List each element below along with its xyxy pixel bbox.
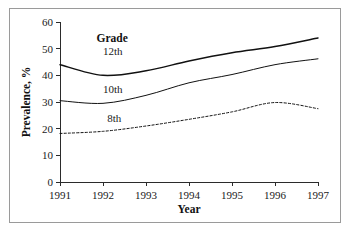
legend-title: Grade: [97, 32, 128, 44]
x-tick-label: 1994: [178, 189, 201, 201]
y-tick-label: 20: [42, 123, 54, 135]
series-label-12th: 12th: [103, 45, 123, 57]
x-tick-label: 1996: [264, 189, 287, 201]
y-tick-label: 40: [42, 69, 54, 81]
x-tick-label: 1995: [221, 189, 244, 201]
x-axis-ticks: [60, 182, 318, 186]
line-chart: 0 10 20 30 40 50 60 1991 1992 1993 1994 …: [0, 0, 351, 237]
y-tick-label: 30: [42, 96, 54, 108]
series-label-8th: 8th: [107, 112, 122, 124]
y-tick-label: 0: [48, 176, 54, 188]
series-line-8th: [60, 102, 318, 133]
x-axis-tick-labels: 1991 1992 1993 1994 1995 1996 1997: [49, 189, 330, 201]
y-axis-ticks: [56, 22, 60, 182]
x-tick-label: 1991: [49, 189, 71, 201]
x-axis-title: Year: [178, 203, 201, 215]
series-label-10th: 10th: [103, 83, 123, 95]
y-axis-title: Prevalence, %: [20, 67, 32, 138]
series-group: [60, 38, 318, 133]
y-tick-label: 10: [42, 149, 54, 161]
x-tick-label: 1997: [307, 189, 330, 201]
figure-root: 0 10 20 30 40 50 60 1991 1992 1993 1994 …: [0, 0, 351, 237]
series-line-10th: [60, 59, 318, 104]
y-tick-label: 50: [42, 43, 54, 55]
x-tick-label: 1993: [135, 189, 158, 201]
y-tick-label: 60: [42, 16, 54, 28]
x-tick-label: 1992: [92, 189, 114, 201]
y-axis-tick-labels: 0 10 20 30 40 50 60: [42, 16, 54, 188]
